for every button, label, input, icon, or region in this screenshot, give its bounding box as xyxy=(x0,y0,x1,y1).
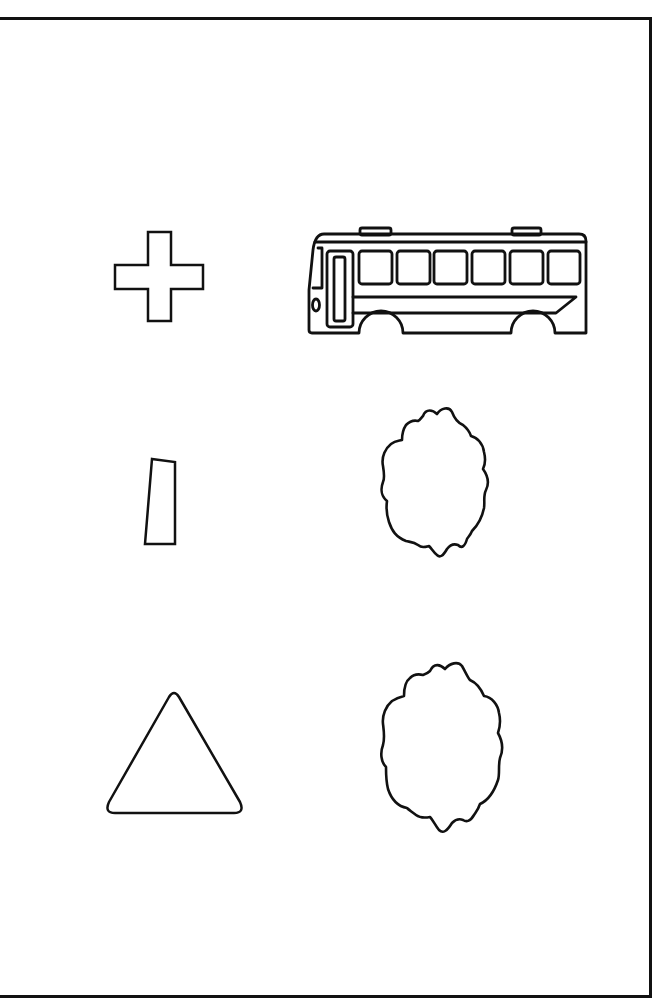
cloud-shape-1 xyxy=(382,408,488,556)
quadrilateral-shape xyxy=(145,459,175,544)
page-border xyxy=(0,17,652,998)
bus-icon xyxy=(309,228,586,333)
worksheet-page xyxy=(0,0,653,998)
cross-shape xyxy=(115,232,203,321)
triangle-shape xyxy=(107,693,241,813)
cloud-shape-2 xyxy=(381,663,502,832)
worksheet-canvas xyxy=(0,0,653,998)
